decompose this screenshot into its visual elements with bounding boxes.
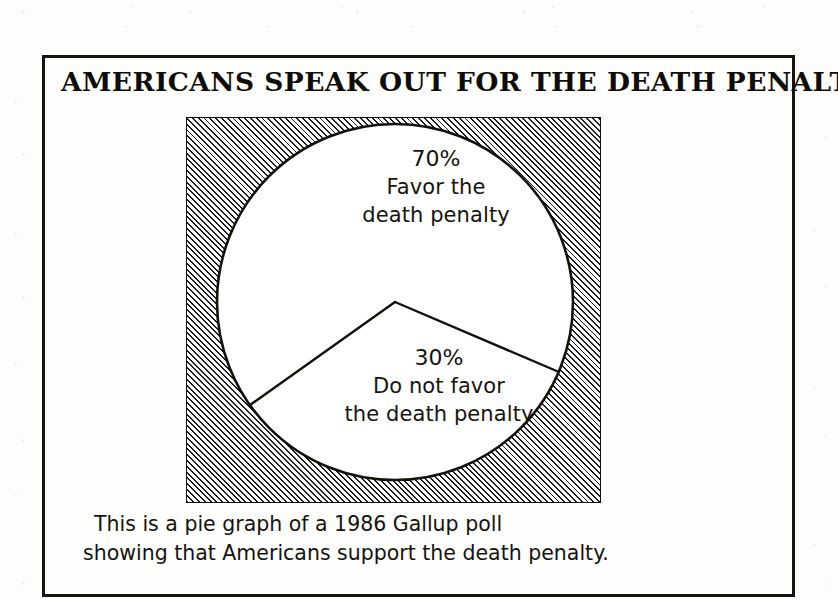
figure-frame: AMERICANS SPEAK OUT FOR THE DEATH PENALT… xyxy=(42,55,795,597)
pie-chart-plate: 70% Favor the death penalty 30% Do not f… xyxy=(186,117,601,503)
slice-text-not-favor-2: the death penalty xyxy=(314,400,564,428)
caption-line-2: showing that Americans support the death… xyxy=(73,539,773,568)
figure-caption: This is a pie graph of a 1986 Gallup pol… xyxy=(73,510,773,568)
slice-text-favor-2: death penalty xyxy=(321,201,551,229)
slice-label-not-favor: 30% Do not favor the death penalty xyxy=(314,343,564,428)
slice-text-favor-1: Favor the xyxy=(321,173,551,201)
slice-percent-favor: 70% xyxy=(321,144,551,173)
caption-line-1: This is a pie graph of a 1986 Gallup pol… xyxy=(73,510,773,539)
slice-label-favor: 70% Favor the death penalty xyxy=(321,144,551,229)
figure-title: AMERICANS SPEAK OUT FOR THE DEATH PENALT… xyxy=(61,66,781,97)
slice-text-not-favor-1: Do not favor xyxy=(314,372,564,400)
slice-percent-not-favor: 30% xyxy=(314,343,564,372)
